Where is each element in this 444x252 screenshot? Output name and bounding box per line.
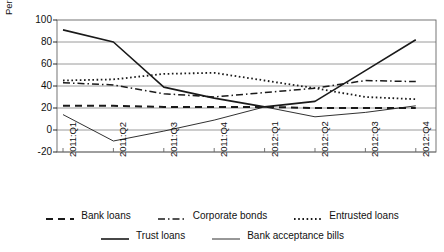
legend-row-primary: Bank loansCorporate bondsEntrusted loans — [0, 206, 444, 224]
legend-item-bank-acceptance-bills[interactable]: Bank acceptance bills — [211, 230, 344, 241]
x-axis-tick-2012-q1: 2012:Q1 — [270, 121, 280, 157]
legend-line-swatch-icon — [45, 210, 75, 220]
legend-label: Bank acceptance bills — [247, 230, 344, 241]
x-axis-tick-2012-q4: 2012:Q4 — [421, 121, 431, 157]
legend-line-swatch-icon — [157, 210, 187, 220]
legend-label: Trust loans — [136, 230, 185, 241]
x-axis-tick-2011-q2: 2011:Q2 — [118, 122, 128, 157]
x-axis-tick-2012-q2: 2012:Q2 — [320, 121, 330, 157]
chart-legend: Bank loansCorporate bondsEntrusted loans… — [0, 206, 444, 252]
x-axis-tick-2012-q3: 2012:Q3 — [370, 121, 380, 157]
legend-item-entrusted-loans[interactable]: Entrusted loans — [293, 210, 399, 221]
legend-row-secondary: Trust loansBank acceptance bills — [0, 226, 444, 244]
x-axis-tick-2011-q1: 2011:Q1 — [68, 122, 78, 157]
legend-line-swatch-icon — [293, 210, 323, 220]
legend-label: Corporate bonds — [193, 210, 268, 221]
legend-item-corporate-bonds[interactable]: Corporate bonds — [157, 210, 268, 221]
growth-rate-line-chart: Per cent of growth rate 100806040200-20 … — [0, 0, 444, 252]
legend-item-trust-loans[interactable]: Trust loans — [100, 230, 185, 241]
x-axis-tick-2011-q4: 2011:Q4 — [219, 122, 229, 157]
legend-item-bank-loans[interactable]: Bank loans — [45, 210, 130, 221]
x-axis-tick-2011-q3: 2011:Q3 — [169, 122, 179, 157]
legend-label: Bank loans — [81, 210, 130, 221]
legend-label: Entrusted loans — [329, 210, 399, 221]
legend-line-swatch-icon — [100, 230, 130, 240]
legend-line-swatch-icon — [211, 230, 241, 240]
